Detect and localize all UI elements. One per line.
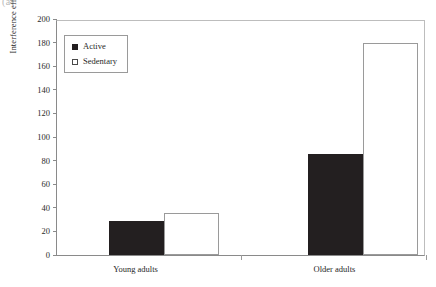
y-axis-tick-label: 120 [37,107,50,119]
y-axis-tick-label: 0 [46,249,50,261]
y-axis-label: Interference effects (in ms) [8,0,22,76]
y-axis-tick-mark [53,137,57,138]
y-axis-tick-label: 180 [37,37,50,49]
y-axis-tick-mark [53,89,57,90]
y-axis-tick-mark [53,19,57,20]
y-axis-tick-label: 60 [42,178,51,190]
y-axis-tick-label: 140 [37,84,50,96]
y-axis-tick-label: 200 [37,13,50,25]
x-axis-label-older: Older adults [314,264,356,274]
x-axis-category-tick [426,255,427,260]
y-axis-tick-mark [53,160,57,161]
legend-item-active[interactable]: Active [72,40,117,53]
y-axis-tick-mark [53,231,57,232]
y-axis-tick-mark [53,207,57,208]
figure-container: (a) Interference effects (in ms) 0204060… [0,0,436,287]
y-axis-tick-mark [53,113,57,114]
y-axis-tick-label: 100 [37,131,50,143]
y-axis-tick-mark [53,66,57,67]
y-axis-tick-label: 160 [37,60,50,72]
bar-sedentary-older[interactable] [363,43,418,255]
y-axis-tick-mark [53,42,57,43]
bar-active-older[interactable] [308,154,363,255]
legend-item-label: Active [83,41,106,52]
y-axis-tick-label: 80 [42,155,51,167]
y-axis-tick-mark [53,184,57,185]
y-axis-tick-label: 40 [42,202,51,214]
x-axis-label-young: Young adults [113,264,158,274]
chart-legend: ActiveSedentary [64,35,128,73]
legend-item-sedentary[interactable]: Sedentary [72,55,117,68]
y-axis-tick-label: 20 [42,225,51,237]
hollow-square-icon [72,59,78,65]
filled-square-icon [72,44,78,50]
y-axis-tick-mark [53,255,57,256]
bar-sedentary-young[interactable] [164,213,219,255]
legend-item-label: Sedentary [83,56,117,67]
bar-active-young[interactable] [109,221,164,255]
x-axis-category-tick [241,255,242,260]
